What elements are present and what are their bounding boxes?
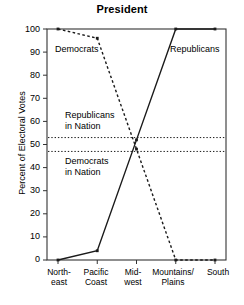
- y-tick-marks: [43, 29, 47, 260]
- data-point: [96, 37, 99, 40]
- data-point: [57, 28, 60, 31]
- chart-container: President Percent of Electoral Votes 100…: [0, 0, 244, 305]
- data-series: [57, 28, 217, 262]
- data-point: [214, 259, 217, 262]
- data-point: [214, 28, 217, 31]
- series-line-democrats: [58, 29, 215, 260]
- data-point: [135, 148, 138, 151]
- plot-area: [0, 0, 244, 305]
- data-point: [174, 259, 177, 262]
- data-point: [57, 259, 60, 262]
- plot-frame: [47, 29, 226, 260]
- data-point: [96, 249, 99, 252]
- data-point: [174, 28, 177, 31]
- series-line-republicans: [58, 29, 215, 260]
- data-point: [135, 138, 138, 141]
